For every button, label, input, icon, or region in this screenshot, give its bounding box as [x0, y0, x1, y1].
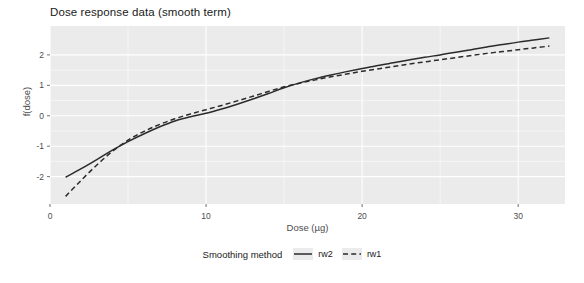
- y-tick-label: -2: [14, 172, 44, 182]
- y-tick-label: 2: [14, 50, 44, 60]
- chart-figure: Dose response data (smooth term) f(dose)…: [0, 0, 584, 283]
- y-tick-label: 1: [14, 80, 44, 90]
- series-line-rw1: [66, 46, 550, 196]
- legend-key-dashed-icon: [342, 248, 362, 260]
- legend-title: Smoothing method: [203, 249, 283, 260]
- legend-label: rw1: [367, 249, 382, 259]
- legend-entry-rw1[interactable]: rw1: [342, 248, 382, 260]
- legend-label: rw2: [318, 249, 333, 259]
- legend-key-solid-icon: [293, 248, 313, 260]
- plot-panel: [50, 26, 565, 204]
- legend: Smoothing method rw2rw1: [0, 248, 584, 260]
- y-tick-label: 0: [14, 111, 44, 121]
- legend-entry-rw2[interactable]: rw2: [293, 248, 333, 260]
- page-title: Dose response data (smooth term): [50, 6, 231, 18]
- x-axis-title: Dose (µg): [50, 222, 565, 233]
- plot-canvas: [50, 26, 565, 204]
- series-line-rw2: [66, 38, 550, 177]
- x-tick-label: 10: [191, 211, 221, 221]
- x-tick-label: 30: [503, 211, 533, 221]
- x-tick-label: 0: [35, 211, 65, 221]
- y-tick-label: -1: [14, 141, 44, 151]
- x-tick-label: 20: [347, 211, 377, 221]
